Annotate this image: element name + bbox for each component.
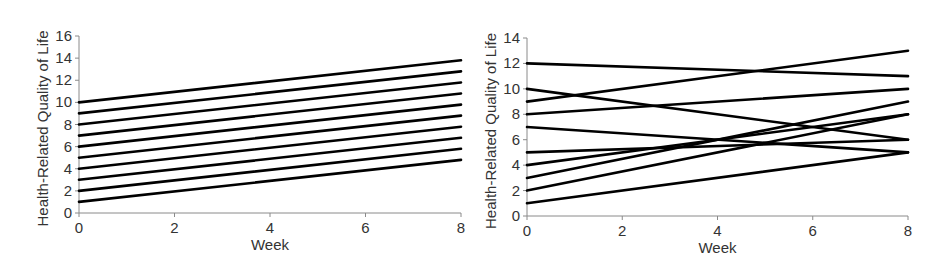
x-tick-label: 4 — [713, 222, 721, 239]
series-line — [79, 127, 461, 169]
x-axis-title: Week — [251, 236, 290, 253]
y-tick-label: 10 — [503, 80, 520, 97]
series-line — [79, 149, 461, 191]
series-line — [79, 83, 461, 125]
y-tick-label: 12 — [55, 71, 72, 88]
y-axis-title: Health-Related Quality of Life — [482, 33, 499, 229]
x-tick-label: 0 — [75, 219, 83, 236]
y-tick-label: 14 — [55, 49, 72, 66]
x-tick-label: 2 — [170, 219, 178, 236]
y-tick-label: 0 — [64, 204, 72, 221]
series-line — [527, 140, 908, 153]
chart-left-parallel-trajectories: 024681012141602468WeekHealth-Related Qua… — [34, 27, 465, 253]
series-line — [79, 105, 461, 147]
x-tick-label: 6 — [809, 222, 817, 239]
y-tick-label: 16 — [55, 27, 72, 44]
y-axis-title: Health-Related Quality of Life — [34, 31, 51, 227]
x-tick-label: 0 — [523, 222, 531, 239]
series-line — [79, 138, 461, 180]
series-line — [79, 94, 461, 136]
y-tick-label: 14 — [503, 29, 520, 46]
x-tick-label: 8 — [904, 222, 912, 239]
x-tick-label: 6 — [361, 219, 369, 236]
y-tick-label: 8 — [64, 116, 72, 133]
y-tick-label: 8 — [512, 105, 520, 122]
x-tick-label: 8 — [457, 219, 465, 236]
series-line — [79, 60, 461, 102]
figure: 024681012141602468WeekHealth-Related Qua… — [0, 0, 941, 267]
y-tick-label: 10 — [55, 93, 72, 110]
y-tick-label: 4 — [512, 156, 520, 173]
x-tick-label: 4 — [266, 219, 274, 236]
y-tick-label: 6 — [64, 138, 72, 155]
y-tick-label: 0 — [512, 207, 520, 224]
y-tick-label: 12 — [503, 54, 520, 71]
y-tick-label: 4 — [64, 160, 72, 177]
series-line — [79, 116, 461, 158]
y-tick-label: 2 — [512, 182, 520, 199]
chart-right-crossing-trajectories: 0246810121402468WeekHealth-Related Quali… — [482, 29, 912, 256]
x-axis-title: Week — [698, 239, 737, 256]
series-line — [527, 63, 908, 76]
series-line — [79, 71, 461, 113]
y-tick-label: 2 — [64, 182, 72, 199]
y-tick-label: 6 — [512, 131, 520, 148]
x-tick-label: 2 — [618, 222, 626, 239]
series-line — [79, 160, 461, 202]
